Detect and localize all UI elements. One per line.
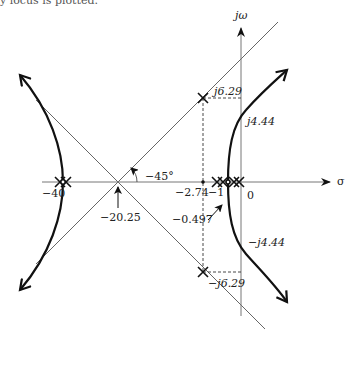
root-locus-diagram: y locus is plotted. — [0, 0, 354, 365]
poles — [55, 93, 244, 277]
pole-complex-upper — [198, 93, 208, 103]
origin-label: 0 — [247, 190, 254, 201]
locus-left-upper — [20, 75, 63, 182]
real-axis-label: σ — [337, 176, 345, 187]
centroid-label: −20.25 — [100, 212, 141, 223]
root-locus-plot — [0, 0, 354, 365]
pos-j629-label: j6.29 — [214, 86, 242, 97]
neg-j444-label: −j4.44 — [248, 237, 285, 248]
pole-minus1-label: −1 — [208, 187, 224, 198]
neg-j629-label: −j6.29 — [208, 278, 245, 289]
pole-minus40-label: −40 — [42, 188, 65, 199]
angle-indicator — [131, 168, 137, 182]
breakaway-label: −2.74 — [175, 187, 209, 198]
pos-j444-label: j4.44 — [247, 116, 275, 127]
angle-arc — [131, 168, 137, 182]
angle-label: −45° — [145, 171, 174, 182]
imag-axis-label: jω — [235, 10, 247, 21]
locus-branches — [20, 70, 287, 302]
asymptote-positive-slope — [36, 22, 278, 264]
zero-label: −0.497 — [172, 214, 213, 225]
breakaway-point — [201, 180, 205, 184]
